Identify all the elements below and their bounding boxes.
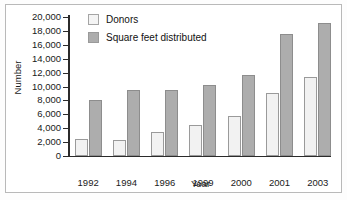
bar-donors-1994 bbox=[113, 140, 126, 156]
y-axis-tick bbox=[63, 45, 69, 46]
legend-swatch-donors bbox=[88, 14, 99, 25]
bar-square-feet-distributed-2003 bbox=[318, 23, 331, 156]
legend-swatch-square-feet-distributed bbox=[88, 32, 99, 43]
y-axis-tick-label: 12,000 bbox=[32, 68, 61, 78]
y-axis-tick bbox=[63, 114, 69, 115]
bar-donors-2001 bbox=[266, 93, 279, 156]
y-axis-tick bbox=[63, 156, 69, 157]
bar-donors-2003 bbox=[304, 77, 317, 156]
y-axis-tick-label: 4,000 bbox=[37, 123, 61, 133]
x-axis-tick-label: 1999 bbox=[184, 177, 222, 188]
bar-square-feet-distributed-1992 bbox=[89, 100, 102, 156]
y-axis-tick bbox=[63, 73, 69, 74]
x-axis-tick-label: 1992 bbox=[69, 177, 107, 188]
x-axis-tick-label: 2003 bbox=[299, 177, 337, 188]
y-axis-tick-labels: 20,00018,00016,00014,00012,00010,0008,00… bbox=[0, 0, 61, 200]
y-axis-tick bbox=[63, 128, 69, 129]
bar-group bbox=[260, 17, 298, 156]
bar-square-feet-distributed-1996 bbox=[165, 90, 178, 156]
legend-item-donors[interactable]: Donors bbox=[88, 14, 207, 25]
bar-square-feet-distributed-2001 bbox=[280, 34, 293, 156]
y-axis-tick-label: 20,000 bbox=[32, 12, 61, 22]
y-axis-tick-label: 16,000 bbox=[32, 40, 61, 50]
y-axis-tick-label: 18,000 bbox=[32, 26, 61, 36]
legend-label-square-feet-distributed: Square feet distributed bbox=[106, 32, 207, 43]
y-axis-tick bbox=[63, 17, 69, 18]
bar-group bbox=[222, 17, 260, 156]
y-axis-tick bbox=[63, 142, 69, 143]
chart-legend: Donors Square feet distributed bbox=[88, 14, 207, 43]
y-axis-tick bbox=[63, 100, 69, 101]
y-axis-tick-label: 14,000 bbox=[32, 54, 61, 64]
bar-donors-2000 bbox=[228, 116, 241, 156]
x-axis-tick-label: 1994 bbox=[107, 177, 145, 188]
chart-figure: 20,00018,00016,00014,00012,00010,0008,00… bbox=[0, 0, 347, 200]
y-axis-tick-label: 0 bbox=[56, 151, 61, 161]
x-axis-tick-label: 2001 bbox=[260, 177, 298, 188]
y-axis-tick-label: 6,000 bbox=[37, 109, 61, 119]
bar-donors-1996 bbox=[151, 132, 164, 156]
y-axis-tick-label: 8,000 bbox=[37, 95, 61, 105]
bar-donors-1999 bbox=[189, 125, 202, 156]
y-axis-tick-label: 10,000 bbox=[32, 82, 61, 92]
x-axis-tick-label: 2000 bbox=[222, 177, 260, 188]
bar-group bbox=[299, 17, 337, 156]
y-axis-tick bbox=[63, 31, 69, 32]
x-axis-tick-label: 1996 bbox=[146, 177, 184, 188]
y-axis-tick bbox=[63, 87, 69, 88]
legend-item-square-feet-distributed[interactable]: Square feet distributed bbox=[88, 32, 207, 43]
legend-label-donors: Donors bbox=[106, 14, 138, 25]
bar-square-feet-distributed-1994 bbox=[127, 90, 140, 156]
bar-square-feet-distributed-2000 bbox=[242, 75, 255, 156]
y-axis-title: Number bbox=[12, 48, 23, 108]
y-axis-tick bbox=[63, 59, 69, 60]
y-axis-tick-label: 2,000 bbox=[37, 137, 61, 147]
bar-donors-1992 bbox=[75, 139, 88, 156]
bar-square-feet-distributed-1999 bbox=[203, 85, 216, 156]
